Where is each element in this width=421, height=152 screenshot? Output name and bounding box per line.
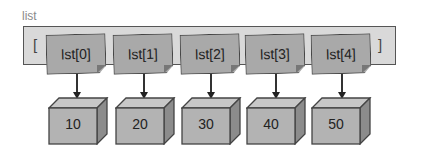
value-label: 10	[49, 116, 97, 132]
close-bracket: ]	[378, 36, 382, 53]
value-label: 50	[312, 116, 360, 132]
value-label: 40	[247, 116, 295, 132]
value-label: 20	[116, 116, 164, 132]
value-label: 30	[182, 116, 230, 132]
list-title: list	[22, 9, 37, 23]
open-bracket: [	[33, 36, 37, 53]
